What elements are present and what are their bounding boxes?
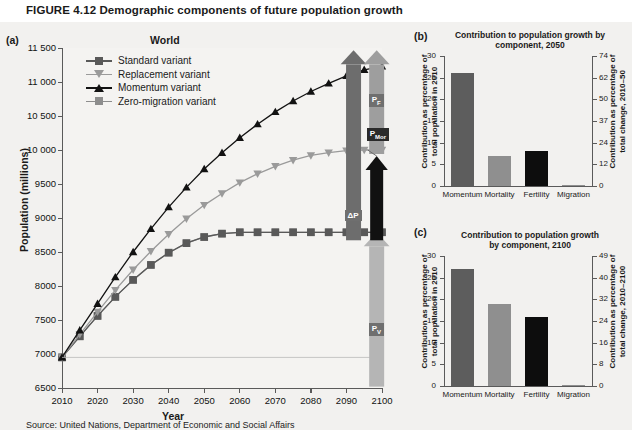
triangle-up-marker-icon — [94, 84, 104, 92]
panel-c-y-tick-label-right: 49 — [599, 251, 617, 260]
panel-c-y-tick — [440, 386, 444, 387]
panel-b-y-tick-label: 30 — [418, 51, 436, 60]
panel-c-title: Contribution to population growth by com… — [440, 230, 620, 250]
panel-c-y-tick-label-right: 8 — [599, 359, 617, 368]
panel-a-x-tick — [239, 388, 240, 393]
panel-c-y-tick-label-right: 24 — [599, 316, 617, 325]
panel-a-x-tick — [204, 388, 205, 393]
figure-caption: Demographic components of future populat… — [99, 4, 402, 16]
panel-b-bar-fertility — [525, 151, 548, 186]
panel-a-y-tick — [58, 150, 63, 151]
legend-marker-icon — [86, 54, 112, 67]
panel-a-y-axis-title: Population (millions) — [18, 100, 30, 300]
legend-label: Zero-migration variant — [118, 95, 216, 109]
legend-marker-icon — [86, 95, 112, 108]
panel-c-y-tick-right — [593, 299, 597, 300]
figure-title: FIGURE 4.12 Demographic components of fu… — [26, 4, 403, 16]
panel-a-x-tick-label: 2010 — [42, 395, 82, 406]
panel-c-y-tick-right — [593, 278, 597, 279]
panel-c-x-tick-label: Migration — [546, 390, 602, 399]
panel-c-y-tick-right — [593, 386, 597, 387]
panel-c-y-tick-label: 30 — [418, 251, 436, 260]
panel-a-y-tick — [58, 354, 63, 355]
panel-b-y-tick — [440, 56, 444, 57]
panel-b-letter: (b) — [414, 30, 427, 42]
panel-a-x-tick — [97, 388, 98, 393]
panel-a-x-tick-label: 2050 — [184, 395, 224, 406]
triangle-down-marker-icon — [94, 70, 104, 78]
panel-b-bar-momentum — [451, 73, 474, 186]
panel-c-y-tick — [440, 299, 444, 300]
panel-b-y-tick-label-right: 24 — [599, 138, 617, 147]
panel-c-y-tick-label: 15 — [418, 316, 436, 325]
panel-a-x-tick-label: 2020 — [78, 395, 118, 406]
figure-source: Source: United Nations, Department of Ec… — [26, 420, 294, 430]
annotation-label-p-f: PF — [369, 94, 384, 107]
panel-b-y-tick — [440, 78, 444, 79]
panel-c-y-tick-label: 25 — [418, 273, 436, 282]
panel-c-y-tick-right — [593, 321, 597, 322]
panel-a-y-tick-label: 11 500 — [0, 42, 56, 53]
panel-a-x-tick-label: 2060 — [220, 395, 260, 406]
legend-label: Momentum variant — [118, 81, 201, 95]
panel-c-title-line1: Contribution to population growth — [440, 230, 620, 240]
panel-a-x-tick-label: 2090 — [326, 395, 366, 406]
panel-b-bar-mortality — [488, 156, 511, 186]
panel-c-y-tick-label-right: 32 — [599, 294, 617, 303]
legend-label: Standard variant — [118, 54, 191, 68]
panel-a-y-tick-label: 6500 — [0, 382, 56, 393]
panel-b-y-tick-right — [593, 164, 597, 165]
panel-c-y-tick — [440, 343, 444, 344]
panel-c-y-tick-right — [593, 343, 597, 344]
panel-c-y-tick-label-right: 16 — [599, 338, 617, 347]
panel-b-y-tick-label-right: 12 — [599, 159, 617, 168]
panel-c-y-tick-right — [593, 364, 597, 365]
panel-b-y-tick — [440, 99, 444, 100]
panel-c-bar-migration — [562, 385, 585, 386]
panel-b-y-tick-label: 10 — [418, 138, 436, 147]
legend-marker-icon — [86, 81, 112, 94]
panel-c-y-axis — [444, 256, 445, 387]
panel-b-y-tick-right — [593, 121, 597, 122]
panel-b-title-line2: component, 2050 — [440, 40, 620, 50]
legend-item-standard-variant: Standard variant — [86, 54, 216, 68]
legend-item-zero-migration-variant: Zero-migration variant — [86, 95, 216, 109]
panel-c-y-tick-label-right: 40 — [599, 273, 617, 282]
panel-a-x-tick — [310, 388, 311, 393]
panel-b-y-tick-label: 25 — [418, 73, 436, 82]
annotation-label-delta-p: ΔP — [345, 210, 362, 221]
panel-c-x-axis — [444, 386, 593, 387]
panel-c: (c) Contribution to population growth by… — [412, 220, 632, 420]
annotation-label-p-mor: PMor — [367, 128, 389, 141]
square-marker-icon — [95, 97, 103, 105]
panel-b-y-tick-label: 15 — [418, 116, 436, 125]
panel-a-y-tick — [58, 218, 63, 219]
panel-b-x-axis — [444, 186, 593, 187]
panel-a-y-tick — [58, 82, 63, 83]
panel-c-y-tick-right — [593, 256, 597, 257]
panel-a-y-tick — [58, 48, 63, 49]
square-marker-icon — [95, 57, 103, 65]
panel-b-y-tick-right — [593, 56, 597, 57]
panel-a-x-tick — [275, 388, 276, 393]
panel-a-y-tick — [58, 116, 63, 117]
panel-a: (a) World 650070007500800085009000950010… — [0, 24, 412, 427]
panel-c-y-tick — [440, 278, 444, 279]
panel-b: (b) Contribution to population growth by… — [412, 24, 632, 220]
panel-b-y-tick-right — [593, 143, 597, 144]
panel-b-y-tick-label-right: 62 — [599, 73, 617, 82]
figure-number: FIGURE 4.12 — [26, 4, 96, 16]
annotation-label-p-v: PV — [369, 323, 384, 336]
legend-marker-icon — [86, 68, 112, 81]
panel-a-y-tick — [58, 184, 63, 185]
panel-b-y-tick — [440, 143, 444, 144]
panel-c-y-tick-label: 5 — [418, 359, 436, 368]
panel-a-y-tick — [58, 286, 63, 287]
panel-a-legend: Standard variantReplacement variantMomen… — [86, 54, 216, 108]
panel-b-y-tick-label-right: 37 — [599, 116, 617, 125]
legend-item-momentum-variant: Momentum variant — [86, 81, 216, 95]
panel-c-y-tick-label-right: 0 — [599, 381, 617, 390]
panel-b-y-tick-right — [593, 186, 597, 187]
panel-b-y-tick — [440, 164, 444, 165]
panel-a-y-tick — [58, 320, 63, 321]
